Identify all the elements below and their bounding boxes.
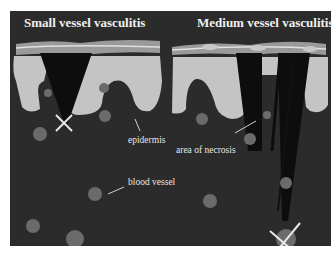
title-small-vessel: Small vessel vasculitis (24, 15, 145, 31)
label-blood-vessel: blood vessel (128, 177, 175, 187)
skin-surface (16, 40, 326, 55)
diagram-graphic (10, 11, 331, 246)
title-medium-vessel: Medium vessel vasculitis (197, 15, 334, 31)
label-epidermis: epidermis (128, 135, 165, 145)
vasculitis-diagram: Small vessel vasculitis Medium vessel va… (10, 11, 331, 246)
label-area-of-necrosis: area of necrosis (176, 145, 236, 155)
